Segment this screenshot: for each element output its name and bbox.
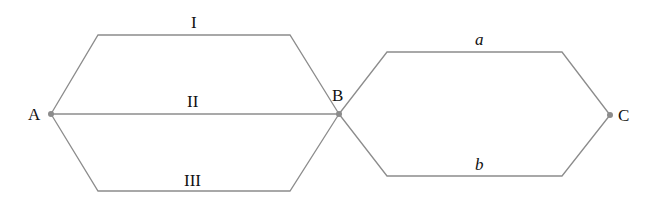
path-diagram: A B C I II III a b bbox=[0, 0, 659, 202]
node-B-label: B bbox=[332, 86, 343, 105]
path-III-label: III bbox=[184, 171, 201, 190]
path-b-label: b bbox=[475, 155, 484, 174]
node-A-label: A bbox=[28, 105, 41, 124]
path-a bbox=[339, 52, 610, 115]
node-C-dot bbox=[607, 112, 613, 118]
path-a-label: a bbox=[475, 30, 484, 49]
path-II-label: II bbox=[187, 92, 199, 111]
node-C-label: C bbox=[618, 106, 629, 125]
node-B-dot bbox=[336, 111, 342, 117]
node-A-dot bbox=[48, 111, 54, 117]
path-I-label: I bbox=[191, 13, 197, 32]
